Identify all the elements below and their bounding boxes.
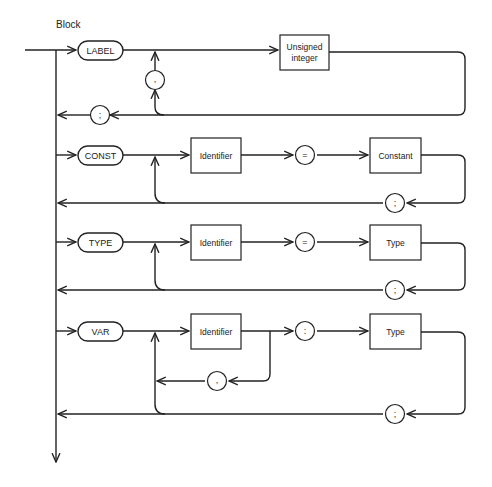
var-comma-text: , (216, 375, 219, 385)
const-equals-text: = (302, 150, 307, 160)
type-identifier-text: Identifier (200, 238, 233, 248)
syntax-diagram-block: Block LABEL Unsigned integer , ; CONST I… (0, 0, 492, 487)
const-identifier-text: Identifier (200, 151, 233, 161)
label-keyword-text: LABEL (86, 46, 114, 56)
unsigned-integer-text-line2: integer (292, 53, 318, 63)
type-section: TYPE Identifier = Type ; (78, 225, 421, 300)
type-keyword-text: TYPE (89, 238, 113, 248)
diagram-title: Block (56, 19, 81, 30)
var-keyword-text: VAR (92, 327, 110, 337)
const-section: CONST Identifier = Constant ; (78, 138, 421, 213)
unsigned-integer-text-line1: Unsigned (287, 42, 323, 52)
var-semicolon-text: ; (394, 409, 397, 419)
type-semicolon-text: ; (394, 285, 397, 295)
type-box-text: Type (386, 238, 405, 248)
label-semicolon-text: ; (99, 110, 102, 120)
const-keyword-text: CONST (85, 151, 117, 161)
const-semicolon-text: ; (394, 198, 397, 208)
var-type-text: Type (386, 327, 405, 337)
type-equals-text: = (302, 237, 307, 247)
var-identifier-text: Identifier (200, 327, 233, 337)
var-colon-text: : (304, 326, 307, 336)
label-comma-text: , (154, 74, 157, 84)
constant-text: Constant (378, 151, 413, 161)
label-section: LABEL Unsigned integer , ; (78, 35, 329, 125)
